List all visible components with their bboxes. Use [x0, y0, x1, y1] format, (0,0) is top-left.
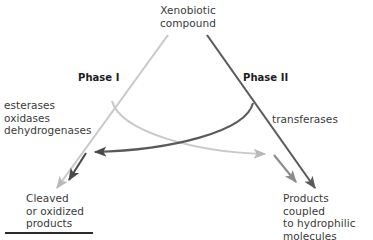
xenobiotic-metabolism-diagram: Xenobiotic compound Phase I Phase II est… [0, 0, 373, 240]
figure-bottom-rule [5, 232, 93, 234]
xenobiotic-compound-title: Xenobiotic compound [140, 4, 236, 29]
phase-1-label: Phase I [78, 72, 119, 85]
phase-2-label: Phase II [243, 72, 288, 85]
phase-2-product-label: Products coupled to hydrophilic molecule… [283, 192, 373, 240]
phase-1-product-label: Cleaved or oxidized products [26, 192, 84, 230]
phase-2-enzymes-label: transferases [272, 113, 338, 126]
phase1-product-arrow [274, 155, 296, 182]
phase2-to-phase1-curve [95, 103, 253, 152]
phase1-to-phase2-curve [112, 101, 265, 154]
phase-1-enzymes-label: esterases oxidases dehydrogenases [4, 99, 91, 137]
phase2-main-arrow [207, 35, 315, 188]
